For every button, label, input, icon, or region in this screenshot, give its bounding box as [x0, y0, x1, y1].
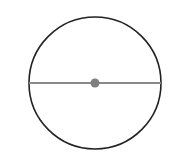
circle-diagram	[0, 0, 175, 160]
center-point	[91, 79, 100, 88]
